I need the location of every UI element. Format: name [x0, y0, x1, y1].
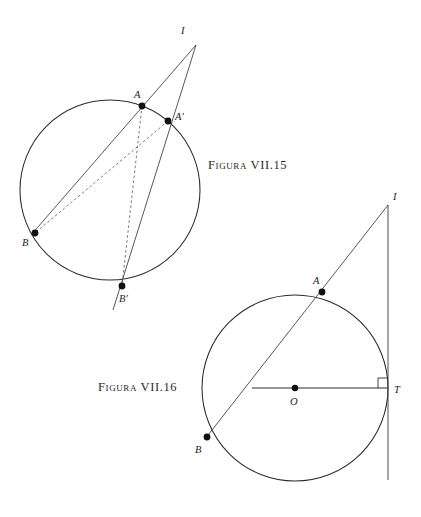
right-angle-marker-at-t: [378, 378, 388, 388]
point-a-fig15: [139, 103, 146, 110]
point-a-fig16: [319, 289, 326, 296]
secant-i-to-bprime: [113, 45, 196, 310]
label-a-fig15: A: [133, 89, 141, 100]
chord-a-to-bprime: [122, 106, 142, 286]
secant-i-to-b: [31, 45, 196, 235]
label-b-fig15: B: [22, 237, 29, 248]
label-t-fig16: T: [394, 384, 401, 395]
label-bprime-fig15: B': [119, 293, 128, 304]
geometry-canvas: I A A' B B' I A B O T: [0, 0, 421, 517]
label-aprime-fig15: A': [174, 111, 184, 122]
chord-aprime-to-b: [35, 121, 168, 233]
point-aprime-fig15: [165, 118, 172, 125]
label-a-fig16: A: [312, 275, 320, 286]
label-i-fig16: I: [392, 191, 397, 202]
figure-vii-16: I A B O T: [195, 191, 401, 481]
caption-figura-vii-16: Figura VII.16: [98, 380, 177, 395]
point-bprime-fig15: [119, 283, 126, 290]
label-i-fig15: I: [180, 25, 185, 36]
point-b-fig16: [204, 434, 211, 441]
caption-figura-vii-15: Figura VII.15: [208, 158, 287, 173]
figure-page: I A A' B B' I A B O T: [0, 0, 421, 517]
point-o-center: [292, 385, 298, 391]
label-o-fig16: O: [290, 396, 298, 407]
point-b-fig15: [32, 230, 39, 237]
circle-fig15: [20, 100, 200, 280]
figure-vii-15: I A A' B B': [20, 25, 200, 310]
label-b-fig16: B: [195, 444, 202, 455]
